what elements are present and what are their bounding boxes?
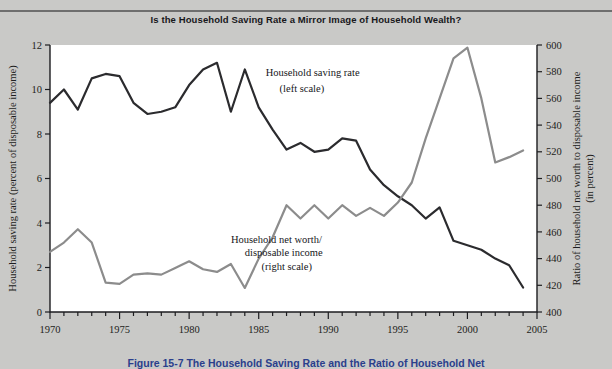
y2-axis-tick-label: 560 [546,93,562,104]
series-annotation-label: disposable income [245,247,323,258]
y-axis-tick-label: 12 [32,40,43,51]
x-axis-tick-label: 1970 [40,324,61,335]
y2-axis-tick-label: 460 [546,227,562,238]
y-axis-tick-label: 10 [32,84,43,95]
y2-axis-tick-label: 420 [546,280,562,291]
y2-axis-tick-label: 400 [546,307,562,318]
series-annotation-label: Household net worth/ [231,234,322,245]
x-axis-tick-label: 1995 [387,324,408,335]
x-axis-tick-label: 1980 [179,324,200,335]
y2-axis-title-line2: (in percent) [584,154,596,203]
x-axis-tick-label: 2005 [527,324,548,335]
x-axis-tick-label: 1990 [318,324,339,335]
y-axis-tick-label: 8 [37,129,42,140]
y2-axis-tick-label: 600 [546,40,562,51]
x-axis-tick-label: 1985 [248,324,269,335]
y-axis-tick-label: 6 [37,173,42,184]
y2-axis-tick-label: 520 [546,146,562,157]
line-chart: 0246810124004204404604805005205405605806… [0,0,612,340]
x-axis-tick-label: 2000 [457,324,478,335]
y2-axis-tick-label: 580 [546,66,562,77]
series-annotation-label: (left scale) [280,83,325,95]
figure-container: Is the Household Saving Rate a Mirror Im… [0,0,612,369]
figure-caption: Figure 15-7 The Household Saving Rate an… [0,357,612,369]
series-annotation-label: Household saving rate [266,67,360,78]
y-axis-title: Household saving rate (percent of dispos… [7,65,19,292]
y2-axis-tick-label: 540 [546,120,562,131]
y2-axis-title: Ratio of household net worth to disposab… [571,71,582,285]
y2-axis-tick-label: 500 [546,173,562,184]
chart-plot-area: 0246810124004204404604805005205405605806… [0,0,612,340]
x-axis-tick-label: 1975 [109,324,130,335]
y-axis-tick-label: 0 [37,307,42,318]
y-axis-tick-label: 4 [37,218,43,229]
y2-axis-tick-label: 480 [546,200,562,211]
series-annotation-label: (right scale) [261,261,312,273]
y-axis-tick-label: 2 [37,262,42,273]
y2-axis-tick-label: 440 [546,253,562,264]
